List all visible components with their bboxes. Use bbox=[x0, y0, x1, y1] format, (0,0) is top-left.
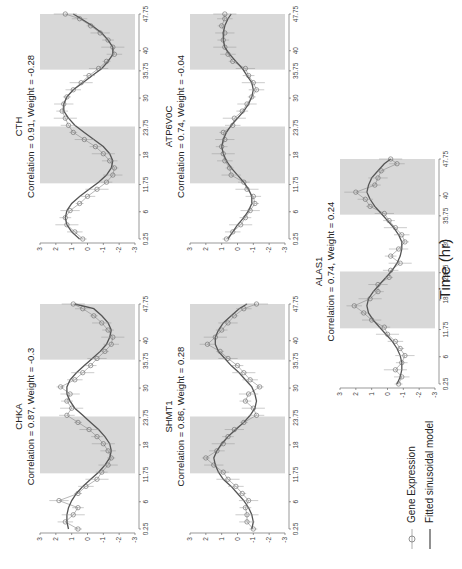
y-tick-label: -1 bbox=[249, 247, 256, 253]
x-tick-label: 30 bbox=[142, 94, 149, 102]
y-tick-label: 2 bbox=[202, 537, 209, 541]
x-tick-label: 30 bbox=[142, 384, 149, 392]
legend: Gene Expression Fitted sinusoidal model bbox=[400, 409, 445, 549]
dark-period-shade bbox=[340, 272, 435, 329]
x-tick-label: 6 bbox=[142, 500, 149, 504]
panel-title: CHKA bbox=[13, 403, 24, 430]
x-tick-label: 23.75 bbox=[142, 409, 149, 426]
y-tick-label: 1 bbox=[368, 392, 375, 396]
y-tick-label: 2 bbox=[52, 537, 59, 541]
y-tick-label: 0 bbox=[84, 247, 91, 251]
y-tick-label: -3 bbox=[131, 537, 138, 543]
y-tick-label: -2 bbox=[265, 537, 272, 543]
x-tick-label: 23.75 bbox=[142, 119, 149, 136]
panel-title: SHMT1 bbox=[163, 400, 174, 432]
x-tick-label: 18 bbox=[142, 151, 149, 159]
dark-period-shade bbox=[40, 417, 135, 474]
dark-period-shade bbox=[340, 159, 435, 215]
x-tick-label: 47.75 bbox=[142, 295, 149, 312]
y-tick-label: -1 bbox=[99, 247, 106, 253]
legend-label: Gene Expression bbox=[406, 446, 417, 523]
y-tick-label: -1 bbox=[249, 537, 256, 543]
y-tick-label: 0 bbox=[234, 537, 241, 541]
x-tick-label: 18 bbox=[142, 441, 149, 449]
y-tick-label: 2 bbox=[202, 247, 209, 251]
y-tick-label: 3 bbox=[36, 247, 43, 251]
x-tick-label: 47.75 bbox=[292, 295, 299, 312]
dark-period-shade bbox=[190, 14, 285, 70]
y-tick-label: 1 bbox=[218, 537, 225, 541]
legend-item-gene-expression: Gene Expression bbox=[406, 446, 417, 549]
x-tick-label: 11.75 bbox=[292, 466, 299, 482]
dark-period-shade bbox=[190, 304, 285, 360]
x-axis-title: Time (hr) bbox=[430, 199, 460, 339]
x-tick-label: 30 bbox=[292, 94, 299, 102]
y-tick-label: -2 bbox=[115, 247, 122, 253]
panel-title: ALAS1 bbox=[313, 257, 324, 287]
x-tick-label: 11.75 bbox=[142, 176, 149, 192]
panel-subtitle: Correlation = 0.87, Weight = -0.3 bbox=[25, 348, 36, 486]
y-tick-label: 1 bbox=[68, 537, 75, 541]
y-tick-label: -2 bbox=[265, 247, 272, 253]
y-tick-label: 0 bbox=[84, 537, 91, 541]
chart-shmt1: SHMT1Correlation = 0.86, Weight = 0.2832… bbox=[160, 289, 300, 559]
panel-title: CTH bbox=[13, 117, 24, 137]
y-tick-label: 3 bbox=[186, 247, 193, 251]
x-tick-label: 40 bbox=[142, 47, 149, 55]
y-tick-label: 3 bbox=[36, 537, 43, 541]
x-tick-label: 11.75 bbox=[142, 466, 149, 482]
x-tick-label: 47.75 bbox=[142, 5, 149, 22]
chart-atp6v0c: ATP6V0CCorrelation = 0.74, Weight = -0.0… bbox=[160, 0, 300, 269]
x-tick-label: 0.25 bbox=[142, 232, 149, 245]
legend-item-fitted-model: Fitted sinusoidal model bbox=[424, 421, 435, 549]
y-tick-label: 2 bbox=[52, 247, 59, 251]
y-tick-label: 3 bbox=[336, 392, 343, 396]
y-tick-label: -3 bbox=[131, 247, 138, 253]
x-tick-label: 35.75 bbox=[142, 352, 149, 369]
y-tick-label: -1 bbox=[99, 537, 106, 543]
panel-atp6v0c: ATP6V0CCorrelation = 0.74, Weight = -0.0… bbox=[160, 0, 304, 269]
x-tick-label: 35.75 bbox=[292, 62, 299, 79]
y-tick-label: 3 bbox=[186, 537, 193, 541]
x-tick-label: 30 bbox=[292, 384, 299, 392]
chart-cth: CTHCorrelation = 0.91, Weight = -0.28321… bbox=[10, 0, 150, 269]
x-tick-label: 6 bbox=[142, 210, 149, 214]
x-tick-label: 40 bbox=[292, 337, 299, 345]
figure: CHKACorrelation = 0.87, Weight = -0.3321… bbox=[0, 0, 462, 569]
x-tick-label: 35.75 bbox=[142, 62, 149, 79]
panel-subtitle: Correlation = 0.91, Weight = -0.28 bbox=[25, 55, 36, 198]
x-tick-label: 6 bbox=[442, 355, 449, 359]
x-tick-label: 40 bbox=[142, 337, 149, 345]
panel-shmt1: SHMT1Correlation = 0.86, Weight = 0.2832… bbox=[160, 289, 304, 559]
panel-subtitle: Correlation = 0.74, Weight = -0.04 bbox=[175, 55, 186, 198]
panel-subtitle: Correlation = 0.74, Weight = 0.24 bbox=[325, 202, 336, 342]
panel-chka: CHKACorrelation = 0.87, Weight = -0.3321… bbox=[10, 289, 154, 559]
x-tick-label: 47.75 bbox=[442, 150, 449, 167]
y-tick-label: -2 bbox=[115, 537, 122, 543]
x-tick-label: 18 bbox=[292, 151, 299, 159]
panel-cth: CTHCorrelation = 0.91, Weight = -0.28321… bbox=[10, 0, 154, 269]
y-tick-label: 1 bbox=[218, 247, 225, 251]
x-tick-label: 40 bbox=[292, 47, 299, 55]
x-tick-label: 23.75 bbox=[292, 409, 299, 426]
y-tick-label: 0 bbox=[234, 247, 241, 251]
y-tick-label: -3 bbox=[281, 247, 288, 253]
y-tick-label: 1 bbox=[68, 247, 75, 251]
x-tick-label: 47.75 bbox=[292, 5, 299, 22]
x-tick-label: 6 bbox=[292, 210, 299, 214]
x-tick-label: 6 bbox=[292, 500, 299, 504]
x-tick-label: 35.75 bbox=[292, 352, 299, 369]
x-tick-label: 18 bbox=[292, 441, 299, 449]
x-tick-label: 0.25 bbox=[142, 522, 149, 535]
panel-subtitle: Correlation = 0.86, Weight = 0.28 bbox=[175, 347, 186, 487]
y-tick-label: -3 bbox=[281, 537, 288, 543]
x-tick-label: 0.25 bbox=[292, 232, 299, 245]
chart-alas1: ALAS1Correlation = 0.74, Weight = 0.2432… bbox=[310, 144, 450, 414]
x-tick-label: 23.75 bbox=[292, 119, 299, 136]
chart-chka: CHKACorrelation = 0.87, Weight = -0.3321… bbox=[10, 289, 150, 559]
x-tick-label: 11.75 bbox=[292, 176, 299, 192]
dark-period-shade bbox=[40, 304, 135, 360]
x-axis-label: Time (hr) bbox=[436, 239, 453, 299]
y-tick-label: 0 bbox=[384, 392, 391, 396]
x-tick-label: 0.25 bbox=[292, 522, 299, 535]
